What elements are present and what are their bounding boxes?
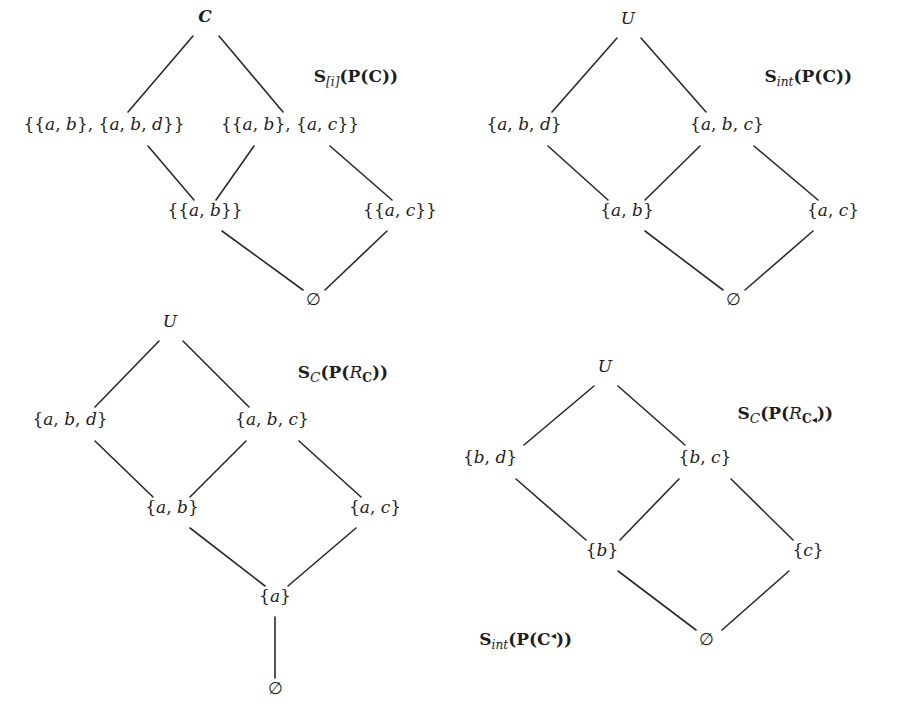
lattice-node: {{a, b}, {a, c}} <box>221 114 359 134</box>
lattice-node: ∅ <box>699 629 714 649</box>
lattice-edge <box>299 441 361 497</box>
lattice-node: U <box>598 356 613 376</box>
lattice-node: {a, b, c} <box>235 409 309 429</box>
lattice-edge <box>216 146 254 200</box>
lattice-node: {{a, b}} <box>167 200 242 220</box>
lattice-edge <box>524 386 594 445</box>
lattice-node: {c} <box>792 540 823 560</box>
lattice-node: {b} <box>586 540 619 560</box>
lattice-edge <box>552 38 617 112</box>
lattice-node: {a, b, d} <box>32 409 107 429</box>
lattice-edge <box>516 479 586 540</box>
lattice-node: {{a, c}} <box>363 200 437 220</box>
hasse-diagram-figure: C{{a, b}, {a, b, d}}{{a, b}, {a, c}}{{a,… <box>0 0 909 717</box>
lattice-edge <box>330 146 392 200</box>
panel-label: Sint(P(C)) <box>765 66 852 89</box>
lattice-edge <box>148 146 194 200</box>
lattice-edge <box>722 571 789 630</box>
lattice-node: {a, b} <box>600 200 654 220</box>
panel-label: SC(P(RC◂)) <box>738 403 833 426</box>
lattice-edge <box>95 441 153 497</box>
lattice-edge <box>745 231 813 290</box>
lattice-edge <box>641 38 706 112</box>
lattice-node: {b, c} <box>679 447 732 467</box>
panel-label: SC(P(RC)) <box>298 362 388 385</box>
lattice-edge <box>645 231 723 290</box>
panel-label: Sint(P(C◂)) <box>479 629 572 652</box>
lattice-node: {a, c} <box>807 200 859 220</box>
lattice-node: {a} <box>259 586 291 606</box>
panel-label: S[i](P(C)) <box>314 66 398 89</box>
lattice-edge <box>731 479 793 540</box>
lattice-node: C <box>198 6 212 26</box>
lattice-node: {a, b, c} <box>690 114 764 134</box>
lattice-edge <box>222 231 303 290</box>
lattice-edge <box>95 341 159 407</box>
lattice-node: {a, b, d} <box>486 114 561 134</box>
lattice-edge <box>183 341 249 407</box>
lattice-edge <box>190 528 265 586</box>
lattice-edge <box>645 146 700 200</box>
lattice-node: {a, b} <box>145 497 199 517</box>
lattice-edge <box>620 479 679 540</box>
lattice-node: {{a, b}, {a, b, d}} <box>23 114 184 134</box>
lattice-node: U <box>163 311 178 331</box>
lattice-edge <box>618 386 685 445</box>
lattice-edge <box>325 231 387 290</box>
lattice-edge <box>190 441 246 497</box>
lattice-node: ∅ <box>726 289 741 309</box>
lattice-edge <box>618 571 696 630</box>
lattice-edge <box>548 146 608 200</box>
labels-layer: S[i](P(C))Sint(P(C))SC(P(RC))SC(P(RC◂))S… <box>298 66 852 652</box>
lattice-edge <box>219 36 283 112</box>
lattice-edge <box>754 146 818 200</box>
lattice-node: ∅ <box>268 678 283 698</box>
lattice-node: {b, d} <box>463 447 517 467</box>
lattice-node: U <box>621 8 636 28</box>
lattice-edge <box>128 36 193 112</box>
lattice-node: ∅ <box>306 289 321 309</box>
lattice-node: {a, c} <box>349 497 401 517</box>
lattice-edge <box>288 528 356 586</box>
